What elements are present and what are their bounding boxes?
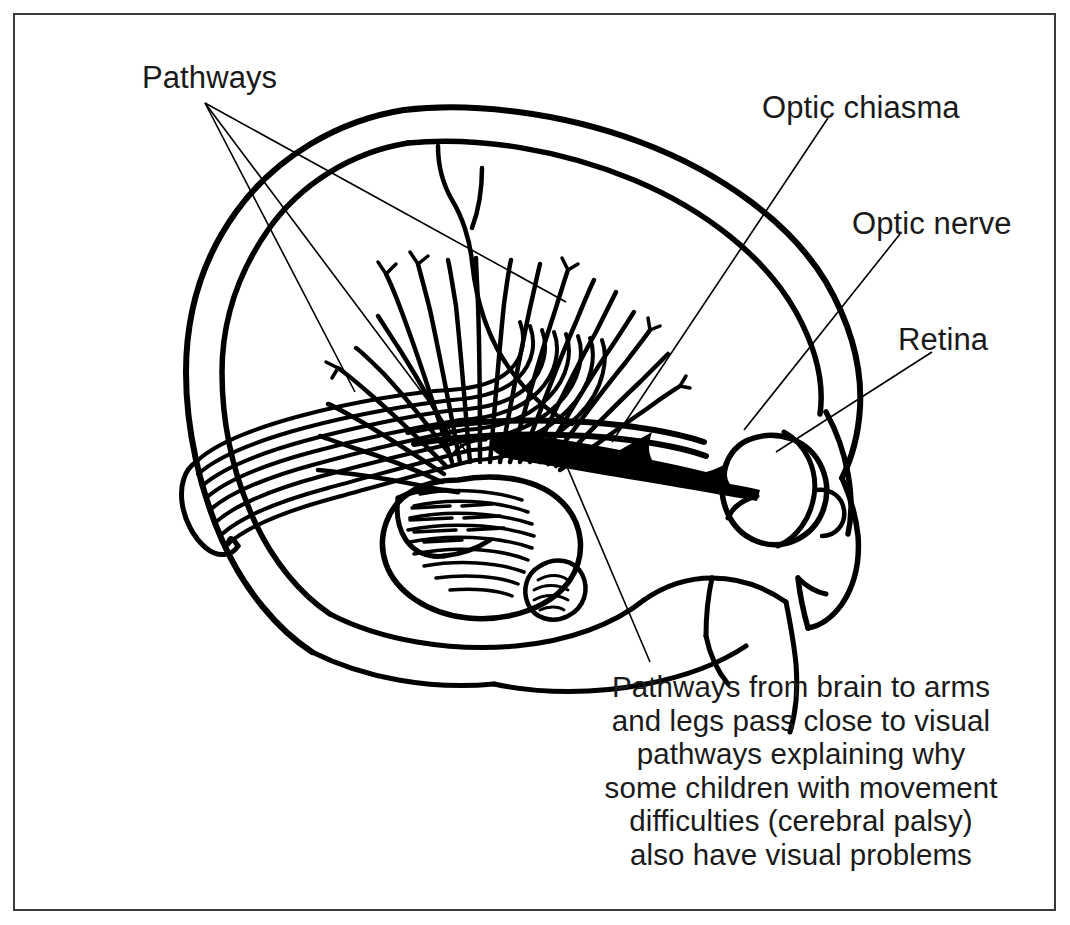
caption-line: difficulties (cerebral palsy) [562,804,1040,838]
caption-line: also have visual problems [562,838,1040,872]
figure-root: Pathways Optic chiasma Optic nerve Retin… [0,0,1070,925]
optic-nerve [728,496,757,518]
caption-line: Pathways from brain to arms [562,670,1040,704]
leader-optic-chiasma [612,118,828,442]
caption-block: Pathways from brain to arms and legs pas… [562,670,1040,871]
leader-pathways-1 [205,103,355,392]
label-optic-chiasma: Optic chiasma [762,92,960,123]
caption-line: some children with movement [562,771,1040,805]
label-pathways: Pathways [142,62,277,93]
label-optic-nerve: Optic nerve [852,208,1012,239]
caption-line: pathways explaining why [562,737,1040,771]
label-retina: Retina [898,324,988,355]
caption-line: and legs pass close to visual [562,704,1040,738]
